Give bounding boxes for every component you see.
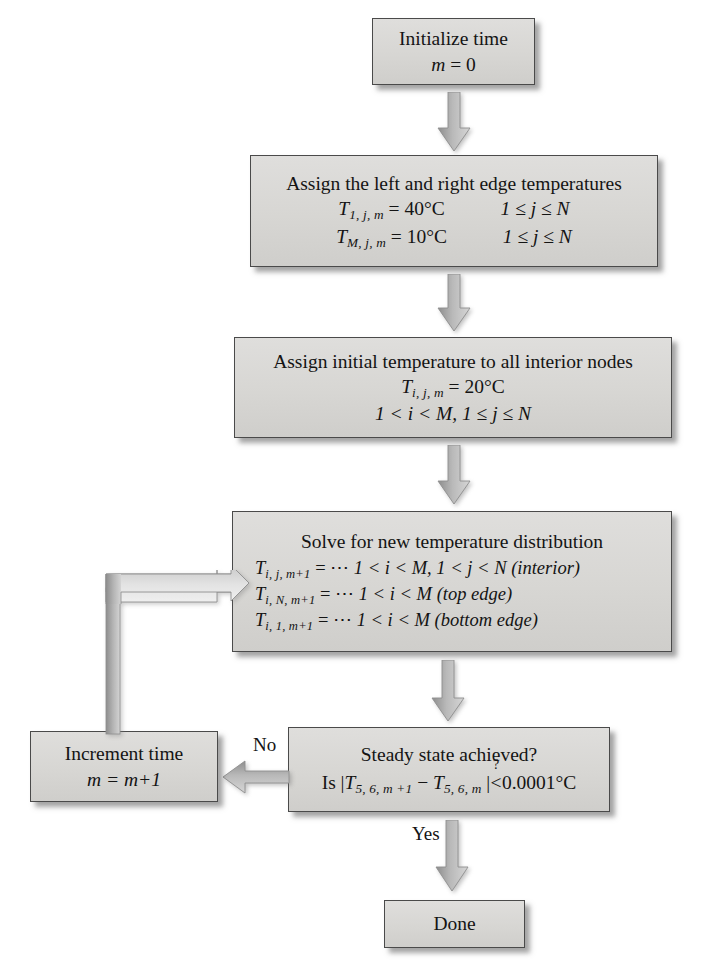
edge-temps-row-1-subscript: 1, j, m (349, 207, 384, 222)
solve-row-1-subscript: i, j, m+1 (265, 566, 310, 580)
edge-temps-row-2-subscript: M, j, m (347, 235, 386, 250)
arrow-edge-temps-to-initial-temps (437, 274, 471, 332)
solve-row-2-symbol: T (255, 584, 265, 604)
decision-test: Is |T5, 6, m +1 − T5, 6, m |?<0.0001°C (322, 770, 577, 797)
arrow-initial-temps-to-solve (437, 445, 471, 505)
decision-t1-symbol: T (345, 772, 356, 793)
increment-time-var: m (87, 769, 101, 790)
initial-temps-subscript: i, j, m (412, 385, 444, 400)
solve-row-3-subscript: i, 1, m+1 (265, 618, 313, 632)
solve-row-1: Ti, j, m+1 = ⋯ 1 < i < M, 1 < j < N (int… (255, 556, 580, 582)
flowchart-canvas: Initialize time m = 0 Assign the left an… (0, 0, 709, 970)
decision-t2-symbol: T (433, 772, 444, 793)
edge-temps-row-1: T1, j, m = 40°C 1 ≤ j ≤ N (338, 196, 569, 223)
edge-temps-row-2-value: = 10°C (391, 226, 447, 247)
initialize-time-var: m (431, 54, 445, 75)
solve-row-3-condition: 1 < i < M (bottom edge) (357, 610, 538, 630)
arrow-increment-loop-to-solve (105, 570, 250, 735)
decision-t1-subscript: 5, 6, m +1 (355, 781, 412, 796)
initialize-time-value: = 0 (450, 54, 476, 75)
arrow-decision-no-to-increment (222, 760, 290, 794)
edge-temps-row-1-symbol: T (338, 198, 349, 219)
node-assign-edge-temperatures[interactable]: Assign the left and right edge temperatu… (250, 155, 658, 267)
edge-temps-row-2-symbol: T (336, 226, 347, 247)
node-initialize-time[interactable]: Initialize time m = 0 (372, 18, 535, 85)
initial-temps-value: = 20°C (449, 376, 505, 397)
node-solve-new-temperature-distribution[interactable]: Solve for new temperature distribution T… (232, 511, 672, 652)
node-increment-time[interactable]: Increment time m = m+1 (30, 731, 218, 802)
done-label: Done (433, 911, 475, 936)
decision-relation-group: ?< (490, 770, 502, 795)
decision-t2-subscript: 5, 6, m (444, 781, 481, 796)
solve-row-3: Ti, 1, m+1 = ⋯ 1 < i < M (bottom edge) (255, 608, 538, 634)
decision-heading: Steady state achieved? (361, 742, 538, 767)
decision-relation: < (491, 772, 502, 793)
decision-question-mark: ? (490, 757, 502, 771)
solve-row-2-condition: 1 < i < M (top edge) (359, 584, 512, 604)
initial-temps-equation: Ti, j, m = 20°C (401, 374, 505, 401)
increment-time-line1: Increment time (65, 741, 184, 766)
solve-row-2-subscript: i, N, m+1 (265, 592, 315, 606)
edge-temps-row-2-condition: 1 ≤ j ≤ N (503, 226, 572, 247)
initial-temps-condition: 1 < i < M, 1 ≤ j ≤ N (375, 401, 531, 426)
solve-row-2-value: = ⋯ (320, 584, 354, 604)
node-assign-initial-temperature[interactable]: Assign initial temperature to all interi… (234, 337, 672, 438)
solve-heading: Solve for new temperature distribution (301, 529, 603, 554)
initialize-time-line1: Initialize time (399, 26, 508, 51)
solve-row-3-symbol: T (255, 610, 265, 630)
decision-test-prefix: Is | (322, 772, 345, 793)
arrow-initialize-to-edge-temps (437, 92, 471, 152)
decision-minus: − (417, 772, 428, 793)
arrow-solve-to-decision (431, 660, 465, 722)
solve-row-1-value: = ⋯ (315, 558, 349, 578)
solve-row-1-symbol: T (255, 558, 265, 578)
edge-label-no: No (253, 734, 276, 756)
arrow-decision-yes-to-done (435, 820, 469, 892)
edge-temps-row-1-condition: 1 ≤ j ≤ N (501, 198, 570, 219)
increment-time-value: = m+1 (106, 769, 161, 790)
edge-temps-row-2: TM, j, m = 10°C 1 ≤ j ≤ N (336, 224, 572, 251)
initialize-time-line2: m = 0 (431, 52, 476, 77)
node-steady-state-check[interactable]: Steady state achieved? Is |T5, 6, m +1 −… (288, 727, 610, 812)
edge-temps-heading: Assign the left and right edge temperatu… (286, 171, 622, 196)
decision-threshold: 0.0001°C (502, 772, 576, 793)
increment-time-line2: m = m+1 (87, 767, 161, 792)
initial-temps-symbol: T (401, 376, 412, 397)
edge-temps-row-1-value: = 40°C (389, 198, 445, 219)
solve-row-3-value: = ⋯ (318, 610, 352, 630)
node-done[interactable]: Done (384, 900, 525, 948)
initial-temps-heading: Assign initial temperature to all interi… (273, 349, 633, 374)
solve-row-1-condition: 1 < i < M, 1 < j < N (interior) (354, 558, 580, 578)
solve-row-2: Ti, N, m+1 = ⋯ 1 < i < M (top edge) (255, 582, 512, 608)
